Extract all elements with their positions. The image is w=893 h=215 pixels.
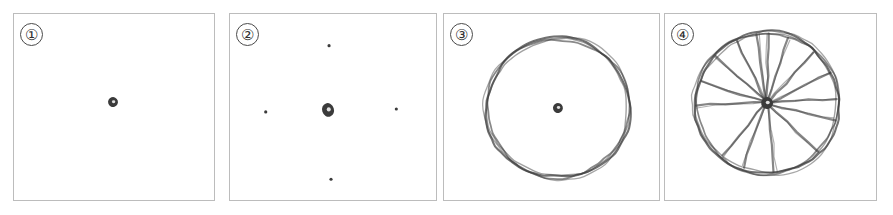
panel-drawing-3 (444, 14, 659, 200)
panel-number-label-2: ② (236, 23, 259, 46)
wheel-hub-core (557, 106, 560, 109)
panel-drawing-1 (14, 14, 214, 200)
panel-hub-with-four-reference-dots: ② (229, 13, 437, 201)
panel-number-label-4: ④ (671, 23, 694, 46)
wheel-hub-core (766, 101, 770, 105)
panel-number-label-1: ① (20, 23, 43, 46)
reference-dot (395, 107, 398, 110)
reference-dot (329, 178, 332, 181)
reference-dot (264, 110, 267, 113)
wheel-hub-core (327, 107, 331, 111)
panel-complete-wheel-with-spokes: ④ (664, 13, 877, 201)
figure-strip: ①②③④ (0, 0, 893, 215)
wheel-spoke (722, 103, 766, 155)
reference-dot (327, 44, 330, 47)
wheel-hub-core (112, 100, 115, 103)
panel-drawing-4 (665, 14, 876, 200)
panel-number-label-3: ③ (450, 23, 473, 46)
panel-hub-only: ① (13, 13, 215, 201)
panel-drawing-2 (230, 14, 436, 200)
panel-hub-with-rim: ③ (443, 13, 660, 201)
